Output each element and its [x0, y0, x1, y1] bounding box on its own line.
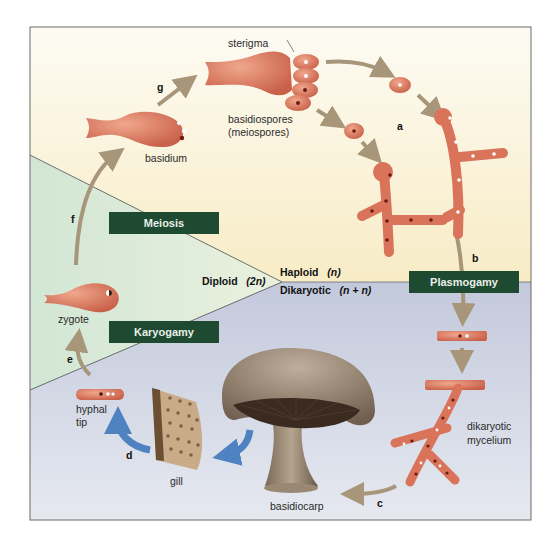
step-d: d [126, 449, 132, 461]
label-tip: tip [76, 416, 87, 428]
step-b: b [472, 252, 478, 264]
life-cycle-diagram: sterigma basidiospores (meiospores) basi… [0, 0, 557, 548]
process-plasmogamy: Plasmogamy [409, 271, 519, 293]
process-karyogamy: Karyogamy [109, 321, 219, 343]
label-hyphal: hyphal [76, 403, 107, 415]
process-meiosis: Meiosis [109, 212, 219, 234]
step-f: f [71, 213, 75, 225]
label-mycelium: mycelium [467, 434, 511, 446]
dikaryon-cell [437, 331, 487, 341]
phase-diploid: Diploid (2n) [202, 275, 266, 287]
label-meiospores: (meiospores) [228, 126, 289, 138]
label-basidium: basidium [145, 152, 187, 164]
label-zygote: zygote [58, 313, 89, 325]
label-basidiocarp: basidiocarp [270, 500, 324, 512]
step-g: g [157, 81, 163, 93]
label-dikaryotic: dikaryotic [467, 420, 511, 432]
phase-dikaryotic: Dikaryotic (n + n) [280, 284, 371, 296]
label-basidiospores: basidiospores [228, 113, 293, 125]
step-e: e [67, 353, 73, 365]
label-gill: gill [170, 475, 183, 487]
label-sterigma: sterigma [228, 37, 268, 49]
phase-haploid: Haploid (n) [280, 266, 341, 278]
step-a: a [397, 120, 403, 132]
step-c: c [377, 497, 383, 509]
